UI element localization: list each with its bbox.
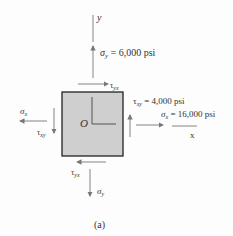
tau-yx-top-label: τyx: [110, 81, 119, 91]
tau-yx-bottom-label: τyx: [71, 168, 80, 178]
tau-xy-label: τxy = 4,000 psi: [133, 96, 185, 107]
sigma-y-label: σy = 6,000 psi: [100, 47, 156, 60]
sigma-x-left-label: σx: [20, 106, 27, 117]
sigma-y-bottom-label: σy: [97, 186, 104, 197]
origin-label: O: [80, 117, 88, 129]
sigma-x-label: σx = 16,000 psi: [161, 109, 216, 120]
tau-xy-left-label: τxy: [37, 128, 46, 138]
y-axis-label: y: [96, 12, 102, 23]
x-axis-label: x: [190, 130, 195, 140]
figure-caption: (a): [94, 219, 105, 231]
diagram-svg: O y σy = 6,000 psi τyx τxy = 4,000 psi σ…: [0, 0, 233, 236]
stress-element-diagram: O y σy = 6,000 psi τyx τxy = 4,000 psi σ…: [0, 0, 233, 236]
